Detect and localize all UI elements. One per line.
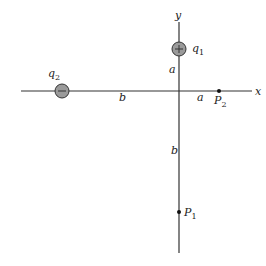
y-axis-label: y (174, 9, 182, 22)
point-p1-marker (177, 210, 181, 214)
distance-b-vertical: b (171, 144, 178, 157)
distance-a-horizontal: a (197, 91, 204, 104)
distance-a-vertical: a (169, 63, 176, 76)
point-p2-marker (217, 89, 221, 93)
p1-label: P1 (183, 206, 197, 221)
x-axis-label: x (255, 85, 262, 98)
p2-label: P2 (213, 94, 227, 109)
q1-label: q1 (192, 42, 204, 57)
charge-q1 (172, 42, 186, 56)
charge-q2 (55, 84, 69, 98)
diagram-canvas: y x q1 q2 a a b b P2 P1 (0, 0, 266, 266)
distance-b-horizontal: b (119, 91, 126, 104)
q2-label: q2 (48, 67, 60, 82)
